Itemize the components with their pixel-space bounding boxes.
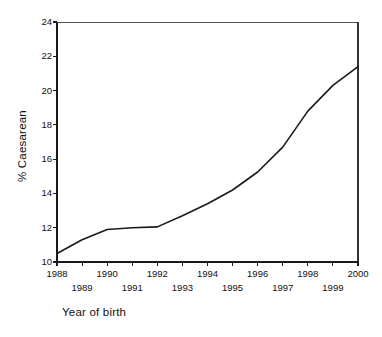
plot-area: [0, 0, 382, 337]
caesarean-trend-chart: % Caesarean Year of birth 10121416182022…: [0, 0, 382, 337]
caesarean-series-line: [57, 67, 358, 254]
